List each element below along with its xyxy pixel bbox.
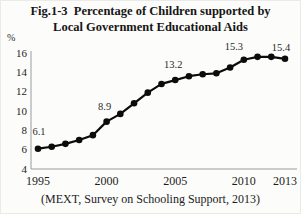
data-point-marker — [282, 56, 289, 63]
y-tick-label: 4 — [22, 163, 28, 175]
y-tick-label: 14 — [16, 66, 28, 78]
data-point-marker — [213, 70, 220, 77]
data-point-marker — [62, 141, 69, 148]
data-point-marker — [103, 118, 110, 125]
y-tick-label: 16 — [16, 47, 28, 59]
y-tick-label: 12 — [16, 85, 27, 97]
data-point-marker — [48, 143, 55, 150]
data-point-marker — [76, 137, 83, 144]
source-caption: (MEXT, Survey on Schooling Support, 2013… — [1, 192, 300, 207]
data-point-marker — [90, 132, 97, 139]
data-point-marker — [131, 100, 138, 107]
y-tick-label: 10 — [16, 105, 28, 117]
data-value-label: 13.2 — [164, 59, 182, 70]
data-point-marker — [158, 81, 165, 88]
x-tick-label: 2000 — [95, 174, 119, 188]
data-point-marker — [144, 89, 151, 96]
data-point-marker — [268, 54, 275, 61]
figure-container: Fig.1-3 Percentage of Children supported… — [0, 0, 301, 214]
data-point-marker — [172, 77, 179, 84]
data-point-marker — [227, 64, 234, 71]
y-tick-label: 6 — [22, 143, 28, 155]
data-value-label: 15.4 — [272, 42, 291, 53]
data-value-label: 8.9 — [98, 101, 111, 112]
x-tick-label: 1995 — [26, 174, 50, 188]
data-value-label: 15.3 — [225, 41, 243, 52]
data-point-marker — [241, 56, 248, 63]
data-point-marker — [117, 111, 124, 118]
data-point-marker — [254, 54, 261, 61]
x-tick-label: 2013 — [273, 174, 297, 188]
data-line — [38, 57, 285, 149]
y-tick-label: 8 — [22, 124, 28, 136]
line-chart: 46810121416199520002005201020136.18.913.… — [1, 1, 301, 214]
data-point-marker — [186, 73, 193, 80]
x-tick-label: 2010 — [232, 174, 256, 188]
data-point-marker — [199, 71, 206, 78]
x-tick-label: 2005 — [163, 174, 187, 188]
data-value-label: 6.1 — [32, 126, 45, 137]
data-point-marker — [35, 145, 42, 152]
